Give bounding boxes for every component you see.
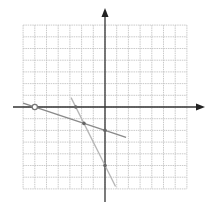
y-intercept-line-2-point bbox=[103, 164, 107, 168]
x-intercept-line-1-point bbox=[32, 104, 37, 109]
intersection-point bbox=[82, 122, 86, 126]
y-intercept-line-1-point bbox=[103, 129, 107, 133]
coordinate-plane bbox=[0, 0, 210, 208]
x-axis-arrow-icon bbox=[196, 104, 205, 111]
y-axis-arrow-icon bbox=[102, 8, 109, 17]
x-intercept-line-2-point bbox=[74, 105, 78, 109]
